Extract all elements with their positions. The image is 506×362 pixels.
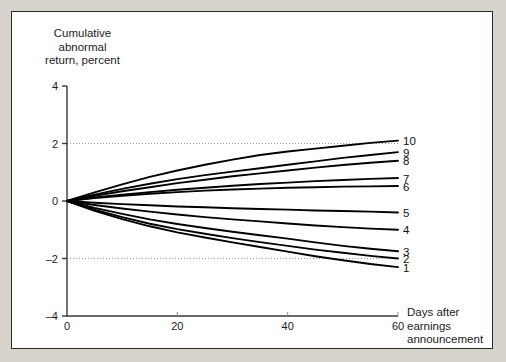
y-tick-label: 2 [52, 138, 58, 150]
series-line [67, 201, 398, 213]
figure-panel: Cumulative abnormal return, percent Days… [11, 11, 493, 349]
series-label: 10 [403, 135, 416, 147]
y-tick-label: –4 [46, 310, 58, 322]
series-line [67, 201, 398, 259]
series-label: 8 [403, 155, 409, 167]
y-tick-label: 0 [52, 195, 58, 207]
series-label: 1 [403, 262, 409, 274]
chart-plot: –4–2024020406010987654321 [12, 12, 494, 350]
x-tick-label: 40 [282, 320, 294, 332]
series-label: 5 [403, 207, 409, 219]
y-tick-label: –2 [46, 253, 58, 265]
x-tick-label: 60 [392, 320, 404, 332]
x-tick-label: 0 [64, 320, 70, 332]
series-label: 4 [403, 224, 410, 236]
axis-spine [67, 86, 398, 316]
series-label: 6 [403, 181, 409, 193]
x-tick-label: 20 [171, 320, 183, 332]
y-tick-label: 4 [52, 80, 58, 92]
series-line [67, 186, 398, 201]
